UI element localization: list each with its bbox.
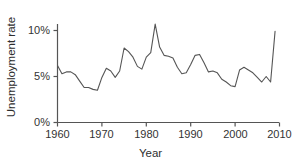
x-axis-title: Year	[0, 147, 301, 159]
x-tick-label-1960: 1960	[37, 129, 78, 140]
y-tick-label-10: 10%	[16, 25, 50, 36]
y-tick-label-0: 0%	[22, 117, 50, 128]
x-tick-label-2010: 2010	[259, 129, 300, 140]
unemployment-rate-line-chart: 0% 5% 10% 1960 1970 1980 1990 2000 2010 …	[0, 0, 301, 165]
x-tick-label-1970: 1970	[81, 129, 122, 140]
x-tick-label-1980: 1980	[126, 129, 167, 140]
x-tick-label-2000: 2000	[215, 129, 256, 140]
y-tick-label-5: 5%	[22, 71, 50, 82]
axes-group	[58, 24, 280, 123]
y-axis-title: Unemployment rate	[5, 12, 17, 122]
x-tick-label-1990: 1990	[170, 129, 211, 140]
unemployment-data-line	[58, 24, 276, 90]
